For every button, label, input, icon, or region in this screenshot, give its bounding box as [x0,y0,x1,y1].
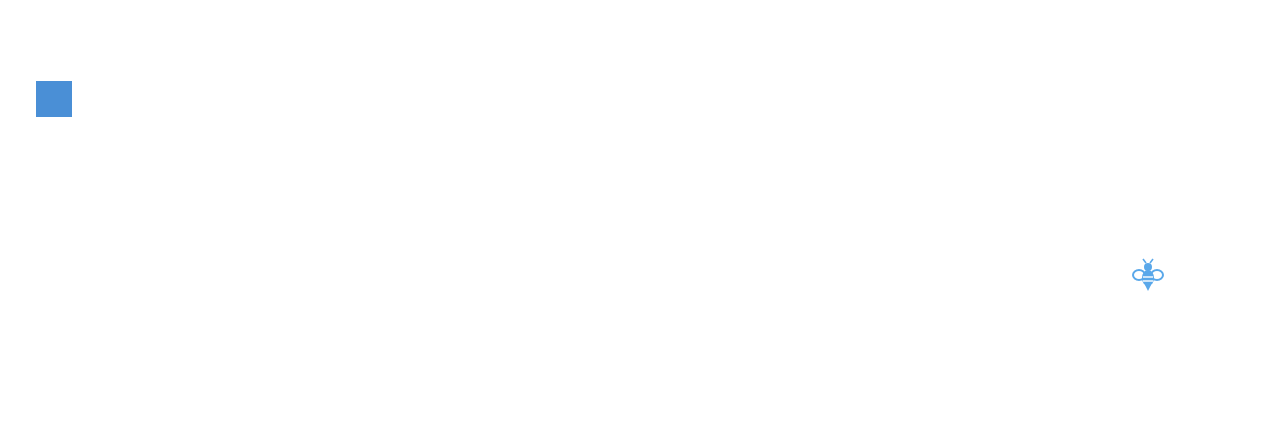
bee-icon [1130,258,1166,294]
number-line [0,0,1283,421]
